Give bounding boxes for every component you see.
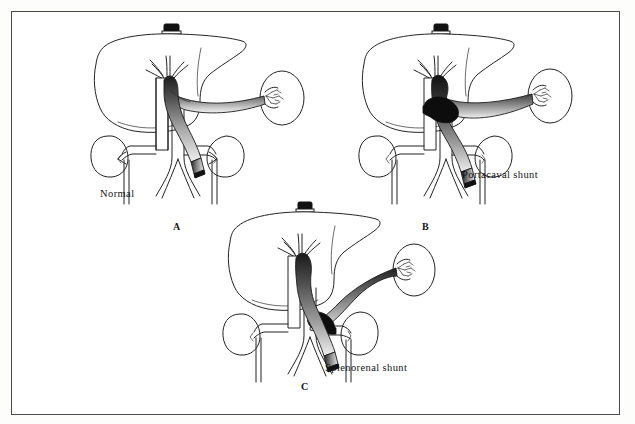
right-kidney (91, 136, 128, 177)
caption-splenorenal-shunt: Splenorenal shunt (325, 362, 407, 373)
left-kidney (341, 312, 378, 355)
suprahepatic-ivc-stub (432, 24, 450, 34)
right-kidney (359, 136, 396, 177)
panel-c-illustration (198, 196, 458, 411)
spleen (528, 69, 572, 123)
suprahepatic-ivc-stub (162, 24, 181, 34)
caption-portacaval-shunt: Portacaval shunt (462, 169, 538, 180)
panel-letter-c: C (301, 381, 309, 392)
right-kidney (223, 314, 260, 355)
panel-c-splenorenal (198, 196, 458, 411)
spleen (260, 71, 304, 125)
portacaval-anastomosis-flange (423, 103, 444, 117)
spleen (393, 244, 435, 296)
panel-letter-a: A (173, 221, 181, 232)
figure-root: Normal A (0, 0, 635, 424)
suprahepatic-ivc-stub (296, 202, 314, 212)
caption-normal: Normal (100, 188, 134, 199)
